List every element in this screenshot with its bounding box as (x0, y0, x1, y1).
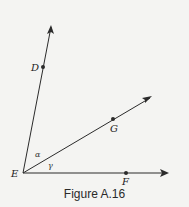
figure-caption: Figure A.16 (0, 187, 189, 201)
point-g (111, 117, 115, 121)
angle-diagram: D G F E α γ (0, 0, 189, 207)
label-d: D (30, 62, 39, 73)
angle-alpha-label: α (35, 150, 41, 159)
point-f (124, 171, 128, 175)
angle-gamma-label: γ (48, 161, 53, 170)
label-f: F (121, 176, 130, 187)
label-e: E (10, 168, 19, 179)
ray-eg (23, 98, 150, 173)
arrowhead-d-icon (47, 25, 54, 34)
point-d (41, 65, 45, 69)
label-g: G (110, 123, 118, 134)
